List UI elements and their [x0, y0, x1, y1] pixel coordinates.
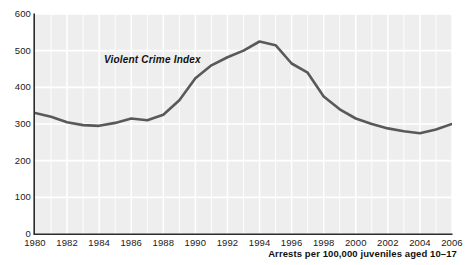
plot-area	[35, 14, 452, 234]
y-axis-tick-label: 100	[3, 192, 31, 202]
y-axis-tick-label: 500	[3, 46, 31, 56]
y-axis-tick-label: 300	[3, 119, 31, 129]
y-axis-tick-label: 600	[3, 9, 31, 19]
series-label-annotation: Violent Crime Index	[104, 54, 201, 65]
plot-svg	[35, 14, 452, 234]
chart-figure: 0100200300400500600 Violent Crime Index …	[0, 0, 469, 265]
x-axis-tick-label: 2006	[432, 237, 469, 248]
y-axis-tick-labels: 0100200300400500600	[0, 0, 31, 265]
y-axis-tick-label: 200	[3, 156, 31, 166]
x-axis-title: Arrests per 100,000 juveniles aged 10–17	[0, 248, 457, 259]
y-axis-tick-label: 400	[3, 82, 31, 92]
